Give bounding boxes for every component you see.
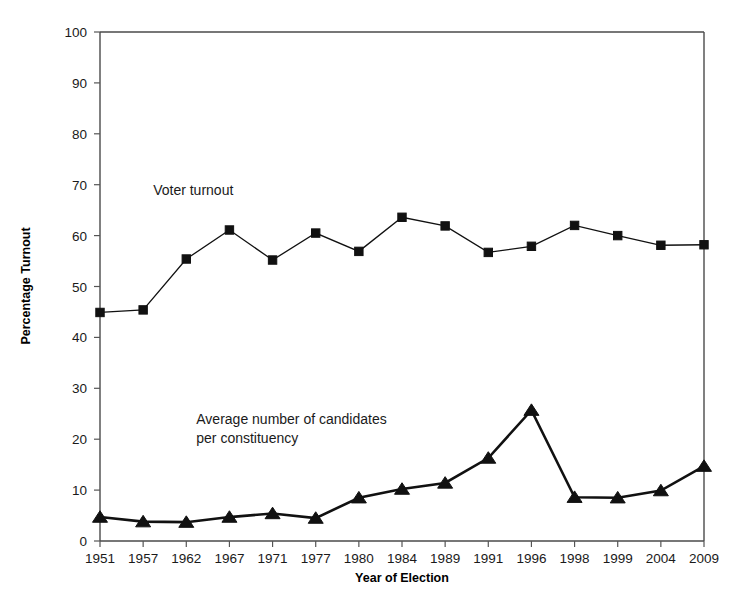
x-tick-label: 2009 (689, 551, 719, 566)
y-axis-title: Percentage Turnout (19, 227, 33, 345)
y-tick-label: 40 (72, 330, 87, 345)
data-point-marker (614, 231, 622, 239)
data-point-marker (139, 306, 147, 314)
chart-figure: 0102030405060708090100 19511957196219671… (0, 0, 731, 607)
x-tick-label: 1996 (516, 551, 546, 566)
chart-background (0, 0, 731, 607)
series-annotation-label: Voter turnout (153, 182, 233, 198)
data-point-marker (182, 255, 190, 263)
x-tick-label: 1984 (387, 551, 418, 566)
y-tick-label: 10 (72, 483, 87, 498)
x-tick-label: 1998 (560, 551, 590, 566)
annotation-line: per constituency (196, 430, 298, 446)
y-tick-label: 0 (79, 534, 87, 549)
data-point-marker (96, 308, 104, 316)
y-tick-label: 100 (64, 25, 87, 40)
annotation-line: Average number of candidates (196, 411, 386, 427)
data-point-marker (527, 242, 535, 250)
y-tick-label: 60 (72, 229, 87, 244)
y-tick-label: 90 (72, 76, 87, 91)
data-point-marker (700, 241, 708, 249)
data-point-marker (312, 229, 320, 237)
x-tick-label: 1989 (430, 551, 460, 566)
x-tick-label: 1951 (85, 551, 115, 566)
data-point-marker (484, 248, 492, 256)
data-point-marker (225, 226, 233, 234)
y-tick-label: 50 (72, 280, 87, 295)
annotation-line: Voter turnout (153, 182, 233, 198)
y-tick-label: 30 (72, 381, 87, 396)
y-tick-label: 80 (72, 127, 87, 142)
x-tick-label: 1980 (344, 551, 374, 566)
data-point-marker (570, 221, 578, 229)
data-point-marker (268, 256, 276, 264)
data-point-marker (657, 241, 665, 249)
x-tick-label: 1967 (214, 551, 244, 566)
y-tick-label: 20 (72, 432, 87, 447)
x-tick-label: 2004 (646, 551, 677, 566)
x-axis-title: Year of Election (355, 571, 449, 585)
x-tick-label: 1957 (128, 551, 158, 566)
y-tick-label: 70 (72, 178, 87, 193)
voter-turnout-line-chart: 0102030405060708090100 19511957196219671… (0, 0, 731, 607)
x-tick-label: 1977 (301, 551, 331, 566)
data-point-marker (355, 247, 363, 255)
x-tick-label: 1962 (171, 551, 201, 566)
data-point-marker (441, 222, 449, 230)
data-point-marker (398, 213, 406, 221)
x-tick-label: 1971 (258, 551, 288, 566)
x-tick-label: 1999 (603, 551, 633, 566)
x-tick-label: 1991 (473, 551, 503, 566)
